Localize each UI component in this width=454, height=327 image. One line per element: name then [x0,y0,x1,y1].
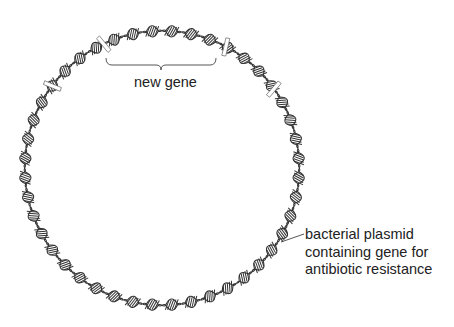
helix-segment [122,27,143,42]
helix-segment [122,294,143,309]
helix-segment [292,148,305,168]
helix-segment [199,31,221,48]
helix-segment [103,288,125,305]
helix-segment [142,298,162,311]
helix-segment [32,222,51,245]
helix-segment [21,186,36,207]
helix-segment [292,168,305,188]
plasmid-label-line-2: containing gene for [305,244,432,262]
plasmid-label-line-3: antibiotic resistance [305,261,432,279]
helix-segment [282,205,299,227]
helix-segment [288,128,303,149]
helix-segment [180,27,201,42]
new-gene-label: new gene [134,74,197,92]
new-gene-bracket [106,58,216,70]
helix-segment [85,279,108,298]
helix-segment [19,148,32,168]
helix-segment [199,288,221,305]
helix-segment [21,128,36,149]
helix-segment [282,109,299,131]
helix-segment [216,279,239,298]
helix-segment [288,186,303,207]
plasmid-label: bacterial plasmid containing gene for an… [305,226,432,279]
helix-segment [19,168,32,188]
dna-helix-ring [19,25,305,311]
helix-segment [25,109,42,131]
helix-segment [273,91,292,114]
helix-segment [162,298,182,311]
helix-segment [142,25,162,38]
helix-segment [25,205,42,227]
helix-segment [180,294,201,309]
plasmid-label-line-1: bacterial plasmid [305,226,432,244]
helix-segment [32,91,51,114]
helix-segment [162,25,182,38]
